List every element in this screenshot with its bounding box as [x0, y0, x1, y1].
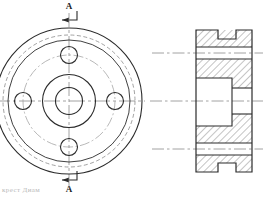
drawing-canvas: A A	[0, 0, 263, 200]
counterbore-outline	[196, 78, 232, 126]
front-view	[0, 13, 145, 189]
sheet-caption: крест Диам	[2, 186, 40, 194]
cad-drawing-svg: A A	[0, 0, 263, 200]
section-view-a-a	[150, 30, 263, 172]
section-label-top: A	[66, 1, 73, 11]
section-mark-top: A	[62, 1, 77, 23]
